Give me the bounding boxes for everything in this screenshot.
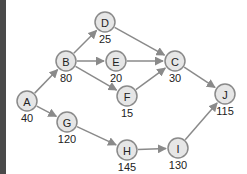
edge-d-to-c	[115, 27, 165, 55]
node-label: H	[123, 145, 131, 157]
node-label: E	[112, 56, 119, 68]
node-i: I130	[168, 138, 188, 171]
node-value: 40	[21, 112, 33, 124]
edge-h-to-i	[138, 148, 166, 149]
node-value: 145	[118, 161, 136, 173]
node-value: 120	[58, 133, 76, 145]
node-label: G	[63, 117, 72, 129]
edge-a-to-g	[37, 106, 57, 116]
node-h: H145	[117, 140, 137, 173]
node-label: A	[23, 96, 31, 108]
node-label: J	[222, 89, 228, 101]
node-c: C30	[165, 51, 185, 84]
node-label: I	[176, 143, 179, 155]
edge-c-to-j	[184, 67, 215, 87]
node-b: B80	[56, 51, 76, 84]
node-d: D25	[95, 12, 115, 45]
node-j: J115	[215, 84, 235, 117]
network-diagram: A40B80D25E20C30F15G120H145I130J115	[0, 0, 247, 174]
edge-f-to-c	[136, 68, 165, 89]
node-value: 25	[99, 33, 111, 45]
node-value: 80	[60, 72, 72, 84]
node-value: 30	[169, 72, 181, 84]
node-g: G120	[57, 112, 77, 145]
node-e: E20	[106, 51, 126, 84]
node-label: D	[101, 17, 109, 29]
node-f: F15	[117, 86, 137, 119]
edge-i-to-j	[185, 103, 217, 140]
edge-a-to-b	[35, 70, 58, 94]
nodes-group: A40B80D25E20C30F15G120H145I130J115	[17, 12, 235, 173]
node-value: 130	[169, 159, 187, 171]
node-label: F	[124, 91, 131, 103]
node-label: B	[62, 56, 69, 68]
edge-g-to-h	[77, 127, 116, 145]
node-label: C	[171, 56, 179, 68]
node-value: 20	[110, 72, 122, 84]
node-a: A40	[17, 91, 37, 124]
edge-b-to-d	[74, 30, 97, 53]
node-value: 115	[216, 105, 234, 117]
node-value: 15	[121, 107, 133, 119]
